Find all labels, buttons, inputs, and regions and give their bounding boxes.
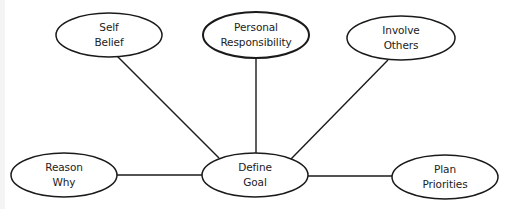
- node-reason-why: Reason Why: [45, 160, 83, 190]
- node-label-line1: Self: [94, 20, 123, 35]
- node-label-line2: Why: [45, 175, 83, 190]
- node-label-line2: Belief: [94, 35, 123, 50]
- edge-self-belief-to-define-goal: [117, 56, 219, 158]
- node-involve-others: Involve Others: [382, 23, 419, 53]
- node-label-line1: Define: [238, 160, 272, 175]
- node-label-line1: Plan: [422, 162, 467, 177]
- node-personal-responsibility: Personal Responsibility: [220, 20, 291, 50]
- node-define-goal: Define Goal: [238, 160, 272, 190]
- node-self-belief: Self Belief: [94, 20, 123, 50]
- node-label-line1: Reason: [45, 160, 83, 175]
- edge-involve-others-to-define-goal: [291, 60, 388, 159]
- node-label-line2: Goal: [238, 175, 272, 190]
- node-label-line1: Involve: [382, 23, 419, 38]
- node-label-line2: Others: [382, 38, 419, 53]
- node-label-line2: Priorities: [422, 177, 467, 192]
- node-plan-priorities: Plan Priorities: [422, 162, 467, 192]
- node-label-line1: Personal: [220, 20, 291, 35]
- mind-map-canvas: Self Belief Personal Responsibility Invo…: [0, 0, 510, 209]
- node-label-line2: Responsibility: [220, 35, 291, 50]
